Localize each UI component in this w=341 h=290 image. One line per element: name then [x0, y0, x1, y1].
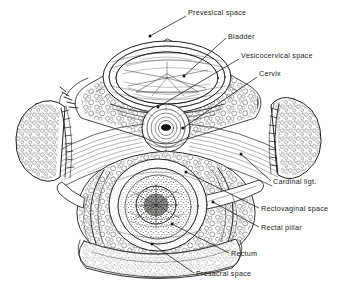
- leader-dot-rectovaginal: [185, 171, 188, 174]
- leader-dot-prevesical: [149, 35, 152, 38]
- left-lateral-mass: [8, 96, 78, 188]
- leader-dot-cervix: [182, 127, 185, 130]
- label-cardinal: Cardinal ligt.: [273, 177, 316, 186]
- leader-dot-rectalpillar: [212, 201, 215, 204]
- illustration-canvas: Prevesical spaceBladderVesicocervical sp…: [0, 0, 341, 290]
- leader-dot-rectum: [171, 223, 174, 226]
- anatomical-figure: Prevesical spaceBladderVesicocervical sp…: [0, 0, 341, 290]
- label-bladder: Bladder: [228, 32, 255, 41]
- label-rectum: Rectum: [231, 249, 257, 258]
- label-presacral: Presacral space: [196, 269, 251, 278]
- leader-dot-presacral: [151, 243, 154, 246]
- label-rectalpillar: Rectal pillar: [261, 223, 302, 232]
- leader-dot-bladder: [183, 75, 186, 78]
- leader-dot-cardinal: [240, 153, 243, 156]
- label-cervix: Cervix: [259, 69, 281, 78]
- leader-line-prevesical: [150, 16, 186, 36]
- label-prevesical: Prevesical space: [188, 8, 246, 17]
- leader-dot-vesicocervical: [157, 106, 160, 109]
- leader-line-cardinal: [241, 154, 271, 181]
- label-rectovaginal: Rectovaginal space: [261, 204, 328, 213]
- label-vesicocervical: Vesicocervical space: [241, 51, 313, 60]
- rectum-structure: [109, 159, 207, 251]
